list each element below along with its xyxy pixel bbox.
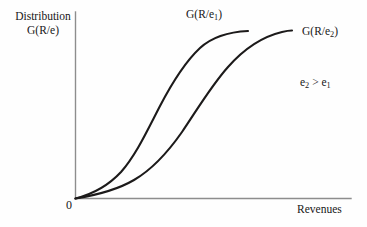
distribution-revenues-chart: Distribution G(R/e) Revenues 0 G(R/e1) G… — [0, 0, 367, 227]
curve-g-r-over-e1 — [76, 31, 249, 199]
relation-operator: > — [309, 76, 321, 88]
annotation-efficiency-relation: e2 > e1 — [300, 76, 331, 91]
curve-label-g-r-over-e1: G(R/e1) — [186, 8, 222, 23]
y-axis-title-line1: Distribution — [11, 10, 75, 24]
x-axis-title: Revenues — [297, 203, 342, 217]
origin-label: 0 — [66, 198, 72, 212]
curve2-label-lead: G(R/e — [302, 25, 330, 37]
relation-sub2: 1 — [327, 81, 331, 90]
curve2-label-trail: ) — [334, 25, 338, 37]
curve-g-r-over-e2 — [76, 31, 293, 199]
y-axis-title: Distribution G(R/e) — [11, 10, 75, 37]
y-axis-title-line2: G(R/e) — [11, 24, 75, 38]
curve1-label-trail: ) — [218, 8, 222, 20]
curve-label-g-r-over-e2: G(R/e2) — [302, 25, 338, 40]
curve1-label-lead: G(R/e — [186, 8, 214, 20]
